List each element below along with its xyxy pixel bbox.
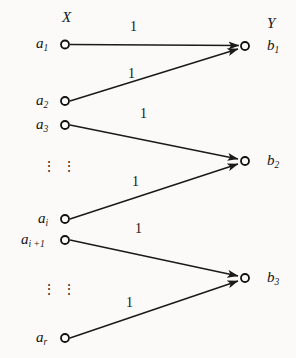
node-a1[interactable] (61, 41, 69, 49)
ellipsis-label-column-lower: ⋮ (42, 283, 56, 297)
edge-ar-b3 (70, 281, 238, 338)
ellipsis-label-column-upper: ⋮ (42, 160, 56, 174)
node-a2[interactable] (61, 97, 69, 105)
set-label-x: X (62, 10, 71, 25)
node-b2[interactable] (241, 157, 249, 165)
node-label-a3: a3 (36, 117, 48, 132)
node-ar[interactable] (61, 334, 69, 342)
node-b3[interactable] (241, 274, 249, 282)
edge-ai-b2 (70, 164, 238, 219)
edge-a2-b1 (70, 49, 238, 101)
node-label-a2: a2 (36, 93, 48, 108)
node-label-ai: ai (38, 211, 48, 226)
node-label-b3: b3 (267, 270, 279, 285)
ellipsis-node-column-lower: ⋮ (62, 283, 76, 297)
node-ai[interactable] (61, 215, 69, 223)
edge-ai1-b3 (70, 240, 238, 276)
node-label-a1: a1 (36, 36, 48, 51)
edge-weight-ai1-b3: 1 (135, 222, 142, 236)
node-label-b2: b2 (267, 153, 279, 168)
edge-weight-a1-b1: 1 (130, 20, 137, 34)
edge-weight-ai-b2: 1 (132, 175, 139, 189)
node-label-ar: ar (36, 330, 47, 345)
node-a3[interactable] (61, 121, 69, 129)
graph-edges-canvas (0, 0, 296, 358)
bipartite-graph-figure: X Y a1 a2 a3 ai ai +1 ar b1 b2 b3 ⋮ ⋮ ⋮ … (0, 0, 296, 358)
edge-weight-a2-b1: 1 (128, 67, 135, 81)
edge-a1-b1 (70, 45, 239, 46)
edge-weight-ar-b3: 1 (126, 296, 133, 310)
node-label-b1: b1 (267, 38, 279, 53)
node-label-ai1: ai +1 (21, 232, 45, 247)
edge-weight-a3-b2: 1 (140, 107, 147, 121)
node-ai1[interactable] (61, 236, 69, 244)
set-label-y: Y (267, 16, 275, 31)
node-b1[interactable] (241, 42, 249, 50)
edge-a3-b2 (70, 125, 238, 159)
ellipsis-node-column-upper: ⋮ (62, 160, 76, 174)
